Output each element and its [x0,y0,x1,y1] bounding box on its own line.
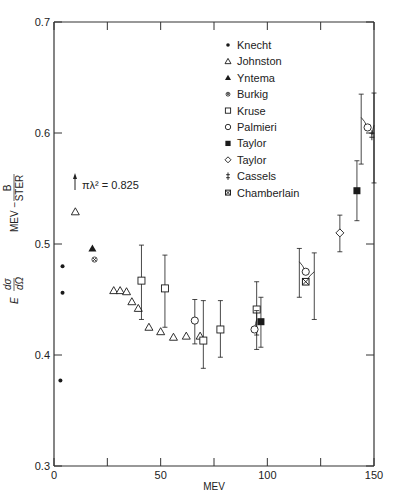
y-axis-title-frac-den: dΩ [14,276,25,290]
legend-label: Johnston [237,55,282,67]
y-axis-title-frac-num: dσ [2,277,13,290]
plot-frame [54,22,374,466]
series-palmieri [191,94,371,349]
legend-label: Knecht [237,39,271,51]
y-tick-label: 0.4 [35,349,50,361]
legend-item: Palmieri [225,121,276,133]
y-axis-ticks: 0.30.40.50.60.7 [35,16,374,472]
series-burkig [92,257,97,262]
y-tick-label: 0.6 [35,127,50,139]
x-tick-label: 0 [51,469,57,481]
legend-label: Taylor [237,154,267,166]
data-series [58,93,376,382]
y-tick-label: 0.5 [35,238,50,250]
y-axis-title-lhs: E [9,297,20,304]
series-knecht [58,264,64,382]
y-axis-units-den: STER [14,175,25,202]
legend-item: Burkig [226,88,268,100]
series-kruse [138,245,260,368]
series-cassels [369,93,376,183]
x-tick-label: 100 [258,469,276,481]
y-axis-units-prefix: MEV − [9,202,20,232]
x-tick-label: 150 [365,469,383,481]
legend-item: Cassels [226,170,276,182]
legend-item: Knecht [226,39,271,51]
legend-item: Taylor [225,154,267,166]
legend-label: Kruse [237,105,266,117]
legend-label: Cassels [237,170,277,182]
series-chamberlain [302,253,316,320]
annotation: πλ² = 0.825 [73,173,139,191]
legend: KnechtJohnstonYntemaBurkigKrusePalmieriT… [225,39,299,199]
legend-item: Taylor [225,137,266,149]
legend-label: Chamberlain [237,187,299,199]
y-axis-title: E dσ dΩ MEV − B STER [2,174,25,304]
y-axis-units-num: B [2,184,13,191]
legend-label: Taylor [237,137,267,149]
annotation-text: πλ² = 0.825 [82,179,139,191]
legend-item: Yntema [225,72,276,84]
scatter-chart: 050100150 0.30.40.50.60.7 KnechtJohnston… [0,0,398,504]
x-tick-label: 50 [155,469,167,481]
series-johnston [71,208,204,340]
legend-label: Burkig [237,88,268,100]
legend-item: Chamberlain [226,187,300,199]
legend-item: Kruse [225,105,265,117]
series-taylor [336,215,344,252]
y-tick-label: 0.3 [35,460,50,472]
series-yntema [88,244,96,251]
legend-item: Johnston [225,55,282,67]
y-tick-label: 0.7 [35,16,50,28]
x-axis-title: MEV [203,481,225,492]
x-axis-ticks: 050100150 [51,22,383,481]
legend-label: Palmieri [237,121,277,133]
legend-label: Yntema [237,72,276,84]
